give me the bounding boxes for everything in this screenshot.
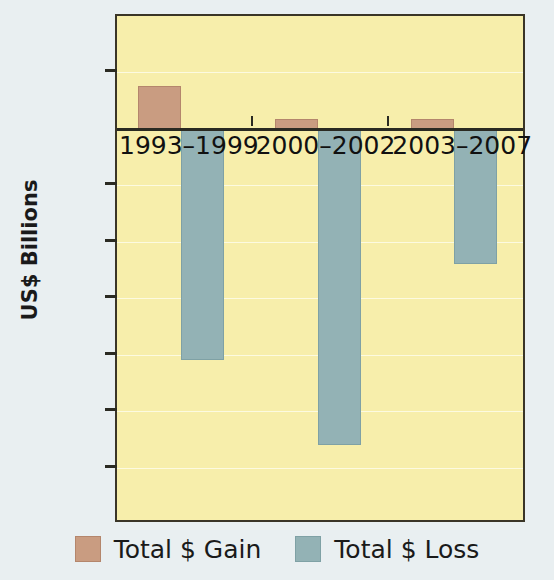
y-tick: [105, 239, 117, 242]
category-label-1: 1993–1999: [119, 133, 259, 158]
chart-legend: Total $ GainTotal $ Loss: [0, 536, 554, 562]
legend-item-1: Total $ Gain: [75, 536, 262, 562]
y-tick: [105, 352, 117, 355]
y-axis-title: US$ Billions: [18, 160, 42, 340]
legend-label: Total $ Loss: [334, 537, 479, 562]
legend-swatch-gain: [75, 536, 101, 562]
gridline: [117, 72, 523, 73]
legend-label: Total $ Gain: [114, 537, 262, 562]
bar-loss-1: [181, 129, 224, 360]
legend-swatch-loss: [295, 536, 321, 562]
category-label-2: 2000–2002: [256, 133, 396, 158]
legend-item-2: Total $ Loss: [295, 536, 479, 562]
y-tick: [105, 465, 117, 468]
y-tick: [105, 182, 117, 185]
bar-chart-figure: US$ Billions 100500−50−100−150−200−250−3…: [0, 0, 554, 580]
y-tick: [105, 408, 117, 411]
gridline: [117, 468, 523, 469]
y-tick: [105, 69, 117, 72]
bar-gain-1: [138, 86, 181, 129]
y-tick: [105, 295, 117, 298]
category-label-3: 2003–2007: [392, 133, 532, 158]
bar-loss-2: [318, 129, 361, 445]
x-tick: [251, 116, 253, 126]
x-tick: [387, 116, 389, 126]
plot-area: [115, 14, 525, 522]
